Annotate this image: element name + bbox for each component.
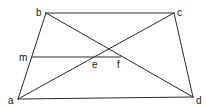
- label-c: c: [177, 7, 182, 18]
- diagonal-bd: [46, 13, 193, 97]
- segment-cd: [174, 13, 193, 97]
- label-f: f: [117, 59, 120, 70]
- label-m: m: [19, 52, 27, 63]
- trapezoid-diagram: b c m e f a d: [0, 0, 212, 108]
- label-d: d: [196, 95, 202, 106]
- label-b: b: [36, 7, 42, 18]
- label-e: e: [92, 59, 98, 70]
- label-a: a: [8, 95, 14, 106]
- segment-ad: [18, 97, 193, 99]
